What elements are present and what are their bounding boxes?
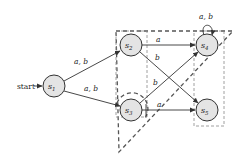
state-subscript: 3 [129,110,133,116]
start-label: start [17,82,35,91]
state-subscript: 2 [128,45,133,51]
edge-s1-s2 [64,51,120,81]
state-s5: s5 [196,99,218,121]
edges: a, b a, b a b b a a, b [64,12,213,110]
edge-label-s1-s3: a, b [84,84,98,93]
state-s2: s2 [120,34,142,56]
edge-label-s3-s5: a [157,100,161,109]
state-subscript: 1 [52,86,56,92]
edge-label-s1-s2: a, b [74,57,88,66]
edge-s1-s3 [64,91,120,106]
start-arrow: start [17,82,42,91]
state-subscript: 5 [205,110,209,116]
edge-label-s2-s4: a [156,35,160,44]
state-subscript: 4 [204,45,209,51]
state-s1: s1 [43,75,65,97]
edge-label-s4-s4: a, b [199,12,213,21]
automaton-diagram: start a, b a, b a b b a a, b s1 s2 s3 s4 [0,0,250,162]
edge-label-s3-s4: b [153,78,158,87]
edge-label-s2-s5: b [155,53,160,62]
state-s3: s3 [120,99,142,121]
state-s4: s4 [196,34,218,56]
